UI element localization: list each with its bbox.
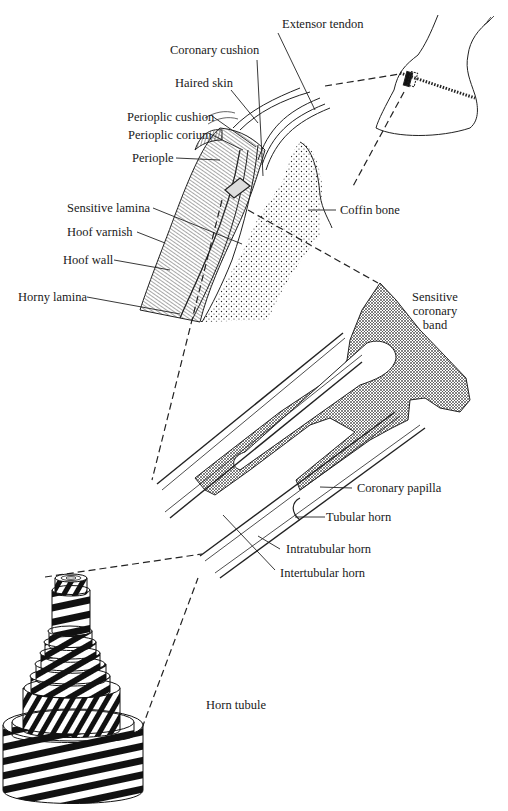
- hoof-anatomy-diagram: Extensor tendon Coronary cushion Haired …: [0, 0, 508, 811]
- label-horny-lamina: Horny lamina: [18, 290, 87, 304]
- label-intertubular-horn: Intertubular horn: [280, 566, 365, 580]
- label-extensor-tendon: Extensor tendon: [282, 17, 364, 31]
- label-sensitive-lamina: Sensitive lamina: [67, 201, 150, 215]
- label-coronary-papilla: Coronary papilla: [357, 481, 441, 495]
- label-coffin-bone: Coffin bone: [340, 203, 400, 217]
- label-hoof-wall: Hoof wall: [63, 253, 113, 267]
- label-perioplic-cushion: Perioplic cushion: [127, 110, 214, 124]
- label-coronary-cushion: Coronary cushion: [170, 43, 259, 57]
- horn-tubule-model: [3, 574, 143, 804]
- label-horn-tubule: Horn tubule: [206, 698, 266, 712]
- diagram-artwork: [0, 0, 508, 811]
- label-perioplic-corium: Perioplic corium: [128, 128, 212, 142]
- label-intratubular-horn: Intratubular horn: [286, 542, 371, 556]
- label-tubular-horn: Tubular horn: [326, 510, 391, 524]
- label-hoof-varnish: Hoof varnish: [67, 225, 133, 239]
- label-sensitive-coronary-band: Sensitive coronary band: [400, 290, 470, 332]
- label-haired-skin: Haired skin: [175, 76, 233, 90]
- label-periople: Periople: [132, 151, 174, 165]
